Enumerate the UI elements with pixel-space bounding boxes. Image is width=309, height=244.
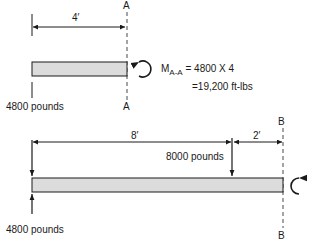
moment-equation-text: = 4800 X 4	[185, 63, 234, 74]
point-load-label: 8000 pounds	[166, 151, 224, 162]
beam-diagram-graphics	[0, 0, 309, 244]
reaction-label-2: 4800 pounds	[6, 224, 64, 235]
diagram-2	[32, 128, 299, 228]
moment-subscript: A-A	[169, 68, 182, 77]
reaction-label-1: 4800 pounds	[6, 101, 64, 112]
section-label-b-top: B	[278, 116, 285, 127]
dimension-label-4ft: 4′	[72, 12, 79, 23]
section-label-b-bottom: B	[278, 230, 285, 241]
beam-segment-2	[32, 178, 283, 192]
diagram-1	[32, 12, 151, 100]
moment-equation: MA-A = 4800 X 4	[161, 63, 234, 78]
beam-segment-1	[32, 62, 127, 76]
section-label-a-top: A	[123, 0, 130, 11]
dimension-label-2ft: 2′	[253, 130, 260, 141]
dimension-label-8ft: 8′	[131, 130, 138, 141]
moment-result: =19,200 ft-lbs	[192, 81, 253, 92]
moment-arrow-icon	[139, 61, 151, 77]
section-label-a-bottom: A	[123, 101, 130, 112]
moment-arrow-icon	[291, 178, 299, 194]
